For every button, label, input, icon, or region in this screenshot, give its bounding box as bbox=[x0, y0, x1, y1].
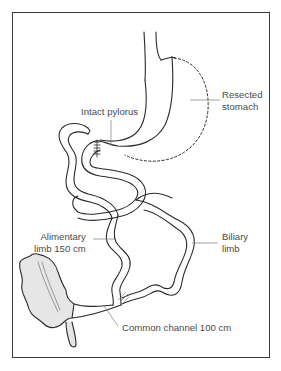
label-common-channel: Common channel 100 cm bbox=[122, 322, 231, 334]
pylorus-staple-line bbox=[94, 140, 100, 157]
esophagus bbox=[144, 32, 161, 80]
label-resected-stomach: Resected stomach bbox=[222, 89, 263, 112]
label-biliary-limb: Biliary limb bbox=[222, 231, 248, 254]
biliary-limb bbox=[122, 193, 194, 304]
label-line: Common channel 100 cm bbox=[122, 322, 231, 334]
label-line: limb 150 cm bbox=[34, 243, 86, 255]
label-line: Alimentary bbox=[34, 231, 86, 243]
label-line: Biliary bbox=[222, 231, 248, 243]
label-line: Resected bbox=[222, 89, 263, 101]
common-channel bbox=[72, 304, 121, 318]
label-line: Intact pylorus bbox=[81, 106, 138, 118]
appendix bbox=[66, 322, 76, 347]
label-line: limb bbox=[222, 243, 248, 255]
alimentary-limb bbox=[59, 124, 146, 306]
label-alimentary-limb: Alimentary limb 150 cm bbox=[34, 231, 86, 254]
label-intact-pylorus: Intact pylorus bbox=[81, 106, 138, 118]
colon bbox=[20, 254, 74, 328]
label-line: stomach bbox=[222, 101, 263, 113]
anatomy-illustration bbox=[0, 0, 281, 371]
